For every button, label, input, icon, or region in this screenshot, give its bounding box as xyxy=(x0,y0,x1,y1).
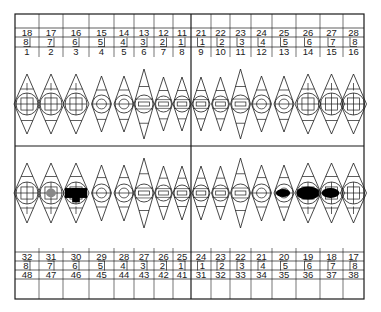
surface-icon xyxy=(177,102,187,106)
occlusal-circle-icon xyxy=(193,185,209,201)
tooth-incisor[interactable] xyxy=(212,166,230,220)
tooth-canine[interactable] xyxy=(231,69,251,139)
surface-icon xyxy=(235,102,246,106)
filling-mark xyxy=(296,186,319,199)
filling-mark xyxy=(72,188,80,202)
tooth-premolar[interactable] xyxy=(92,76,112,132)
tooth-premolar[interactable] xyxy=(114,76,134,132)
lower-fdi-number: 31 xyxy=(196,269,207,280)
tooth-outline-icon xyxy=(231,158,251,228)
tooth-molar[interactable] xyxy=(341,163,367,223)
lower-fdi-number: 45 xyxy=(96,269,107,280)
upper-universal-number: 11 xyxy=(236,46,246,57)
tooth-premolar[interactable] xyxy=(92,165,112,221)
tooth-incisor[interactable] xyxy=(212,77,230,131)
tooth-outline-icon xyxy=(192,166,210,220)
tooth-molar[interactable] xyxy=(341,74,367,134)
upper-universal-number: 16 xyxy=(348,46,359,57)
surface-icon xyxy=(177,191,187,195)
tooth-canine[interactable] xyxy=(231,158,251,228)
lower-fdi-number: 35 xyxy=(279,269,290,280)
tooth-premolar[interactable] xyxy=(252,165,272,221)
tooth-incisor[interactable] xyxy=(173,166,191,220)
lower-fdi-number: 43 xyxy=(139,269,150,280)
tooth-canine[interactable] xyxy=(134,158,154,228)
upper-universal-number: 5 xyxy=(121,46,126,57)
upper-universal-number: 9 xyxy=(198,46,203,57)
surface-icon xyxy=(216,191,226,195)
surface-icon xyxy=(196,191,206,195)
tooth-canine[interactable] xyxy=(134,69,154,139)
upper-universal-number: 12 xyxy=(256,46,267,57)
tooth-outline-icon xyxy=(212,77,230,131)
upper-universal-number: 2 xyxy=(48,46,53,57)
tooth-incisor[interactable] xyxy=(155,166,173,220)
surface-icon xyxy=(235,191,246,195)
upper-universal-number: 7 xyxy=(161,46,166,57)
tooth-outline-icon xyxy=(173,166,191,220)
upper-universal-number: 6 xyxy=(141,46,146,57)
upper-universal-number: 3 xyxy=(73,46,78,57)
tooth-incisor[interactable] xyxy=(173,77,191,131)
surface-icon xyxy=(159,102,169,106)
lower-fdi-number: 34 xyxy=(256,269,267,280)
filling-mark xyxy=(322,188,340,198)
tooth-molar[interactable] xyxy=(14,74,40,134)
tooth-outline-icon xyxy=(173,77,191,131)
lower-fdi-number: 46 xyxy=(71,269,82,280)
upper-teeth-row xyxy=(14,69,367,139)
surface-icon xyxy=(139,191,150,195)
filling-mark xyxy=(46,189,56,198)
upper-universal-number: 1 xyxy=(24,46,29,57)
tooth-molar[interactable] xyxy=(295,74,321,134)
filling-mark xyxy=(276,189,290,197)
lower-fdi-number: 32 xyxy=(215,269,226,280)
lower-fdi-number: 33 xyxy=(235,269,246,280)
tooth-premolar[interactable] xyxy=(274,76,294,132)
tooth-outline-icon xyxy=(231,69,251,139)
lower-fdi-number: 47 xyxy=(46,269,57,280)
surface-icon xyxy=(196,102,206,106)
tooth-outline-icon xyxy=(192,77,210,131)
tooth-molar[interactable] xyxy=(38,163,64,223)
tooth-outline-icon xyxy=(155,166,173,220)
lower-fdi-number: 41 xyxy=(177,269,188,280)
occlusal-circle-icon xyxy=(193,96,209,112)
lower-fdi-number: 36 xyxy=(303,269,314,280)
upper-universal-number: 15 xyxy=(326,46,337,57)
occlusal-circle-icon xyxy=(174,185,190,201)
lower-fdi-number: 42 xyxy=(158,269,169,280)
occlusal-circle-icon xyxy=(135,184,153,202)
lower-fdi-number: 44 xyxy=(119,269,130,280)
tooth-molar[interactable] xyxy=(63,163,89,223)
dental-chart: 1881177216631554144513361227111821192221… xyxy=(0,0,381,312)
tooth-premolar[interactable] xyxy=(114,165,134,221)
upper-universal-number: 10 xyxy=(215,46,226,57)
lower-fdi-number: 38 xyxy=(348,269,359,280)
upper-universal-number: 14 xyxy=(303,46,314,57)
occlusal-circle-icon xyxy=(213,185,229,201)
tooth-molar[interactable] xyxy=(63,74,89,134)
tooth-molar[interactable] xyxy=(14,163,40,223)
tooth-incisor[interactable] xyxy=(155,77,173,131)
tooth-outline-icon xyxy=(134,158,154,228)
occlusal-circle-icon xyxy=(213,96,229,112)
upper-universal-number: 4 xyxy=(99,46,104,57)
upper-universal-number: 13 xyxy=(279,46,290,57)
occlusal-circle-icon xyxy=(135,95,153,113)
tooth-molar[interactable] xyxy=(38,74,64,134)
tooth-incisor[interactable] xyxy=(192,77,210,131)
tooth-molar[interactable] xyxy=(295,163,321,223)
surface-icon xyxy=(216,102,226,106)
tooth-premolar[interactable] xyxy=(252,76,272,132)
lower-fdi-number: 48 xyxy=(22,269,33,280)
upper-universal-number: 8 xyxy=(179,46,184,57)
tooth-incisor[interactable] xyxy=(192,166,210,220)
occlusal-circle-icon xyxy=(232,184,250,202)
tooth-outline-icon xyxy=(155,77,173,131)
lower-fdi-number: 37 xyxy=(326,269,337,280)
occlusal-circle-icon xyxy=(156,96,172,112)
occlusal-circle-icon xyxy=(232,95,250,113)
surface-icon xyxy=(139,102,150,106)
tooth-premolar[interactable] xyxy=(274,165,294,221)
